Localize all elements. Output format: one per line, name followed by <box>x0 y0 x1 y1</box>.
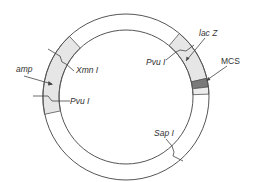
sap-site-marker <box>166 139 183 161</box>
pvu-right-label: Pvu I <box>146 57 166 67</box>
sap-label: Sap I <box>154 128 174 138</box>
mcs-label: MCS <box>221 56 240 66</box>
amp-label: amp <box>16 64 33 74</box>
lacz-label: lac Z <box>199 28 218 38</box>
plasmid-map: amp Xmn I Pvu I Pvu I lac Z MCS Sap I <box>0 0 253 182</box>
mcs-pointer <box>207 66 227 80</box>
pvu-left-label: Pvu I <box>70 96 90 106</box>
xmn-label: Xmn I <box>75 65 99 75</box>
